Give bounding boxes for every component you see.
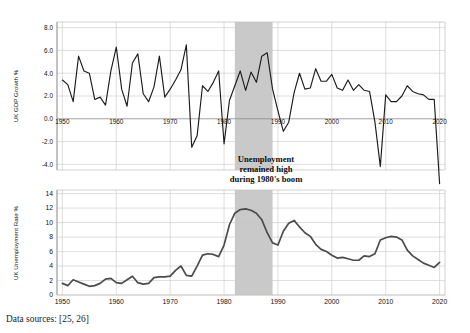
- y-tick-label: 4: [49, 262, 53, 269]
- x-tick-label: 2010: [379, 118, 394, 125]
- gdp-y-tick-labels: -4.0-2.00.02.04.06.08.0: [42, 24, 53, 168]
- y-tick-label: 4.0: [44, 70, 53, 77]
- y-tick-label: 12: [45, 204, 53, 211]
- y-tick-label: 8: [49, 233, 53, 240]
- y-tick-label: 10: [45, 219, 53, 226]
- x-tick-label: 1990: [271, 118, 286, 125]
- dual-line-chart-figure: -4.0-2.00.02.04.06.08.0 1950196019701980…: [0, 0, 470, 333]
- unemployment-chart: 02468101214 1950196019701980199020002010…: [12, 190, 447, 305]
- x-tick-label: 1970: [163, 118, 178, 125]
- y-tick-label: 8.0: [44, 24, 53, 31]
- gdp-y-axis-label: UK GDP Growth %: [12, 69, 19, 122]
- x-tick-label: 2000: [325, 118, 340, 125]
- data-sources-note: Data sources: [25, 26]: [6, 314, 89, 324]
- x-tick-label: 2020: [433, 118, 448, 125]
- x-tick-label: 1950: [55, 298, 70, 305]
- gdp-growth-chart: -4.0-2.00.02.04.06.08.0 1950196019701980…: [12, 22, 447, 184]
- y-tick-label: -4.0: [42, 161, 53, 168]
- x-tick-label: 1980: [216, 298, 231, 305]
- unemployment-y-tick-labels: 02468101214: [45, 190, 53, 298]
- y-tick-label: 2: [49, 277, 53, 284]
- x-tick-label: 1960: [109, 298, 124, 305]
- x-tick-label: 1950: [55, 118, 70, 125]
- y-tick-label: 0.0: [44, 115, 53, 122]
- x-tick-label: 1970: [163, 298, 178, 305]
- x-tick-label: 2020: [432, 298, 447, 305]
- y-tick-label: 6: [49, 248, 53, 255]
- unemployment-x-tick-labels: 19501960197019801990200020102020: [55, 298, 448, 305]
- x-tick-label: 1960: [109, 118, 124, 125]
- x-tick-label: 1980: [217, 118, 232, 125]
- x-tick-label: 2000: [324, 298, 339, 305]
- y-tick-label: 2.0: [44, 92, 53, 99]
- annotation-line-2: remained high: [239, 164, 292, 174]
- y-tick-label: -2.0: [42, 138, 53, 145]
- figure-container: -4.0-2.00.02.04.06.08.0 1950196019701980…: [0, 0, 470, 333]
- annotation-group: Unemployment remained high during 1980's…: [230, 154, 303, 184]
- y-tick-label: 6.0: [44, 47, 53, 54]
- unemployment-highlight-band: [235, 190, 273, 295]
- unemployment-y-axis-label: UK Unemployment Rate %: [12, 206, 19, 280]
- y-tick-label: 14: [45, 190, 53, 197]
- x-tick-label: 2010: [378, 298, 393, 305]
- highlight-band-rect: [235, 190, 273, 295]
- annotation-line-1: Unemployment: [238, 154, 294, 164]
- x-tick-label: 1990: [270, 298, 285, 305]
- y-tick-label: 0: [49, 291, 53, 298]
- annotation-line-3: during 1980's boom: [230, 174, 303, 184]
